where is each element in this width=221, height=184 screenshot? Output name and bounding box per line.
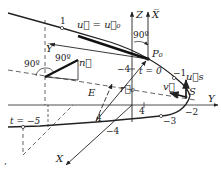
label-x-tick: 4	[96, 113, 102, 123]
label-z-axis: Z	[135, 9, 144, 20]
label-x-bar-axis: X̅	[151, 9, 160, 20]
angle-arc-top	[134, 41, 148, 45]
label-t-neg2: −2	[185, 107, 198, 117]
label-t-neg3: −3	[163, 116, 177, 126]
angle-arc-left	[36, 68, 45, 76]
label-t-neg1: −1	[173, 68, 186, 78]
label-y-tick: 4	[139, 106, 145, 116]
label-t1: 1	[60, 16, 66, 26]
label-t0: t = 0	[139, 66, 162, 76]
label-angle-3: 90º	[133, 30, 149, 40]
label-n-vector: n⃗	[79, 57, 91, 68]
label-u-vector: u⃗ = u⃗₀	[77, 19, 121, 30]
stray-mark: ,	[4, 156, 7, 166]
parametric-curve-diagram: Z X̅ Y̅ Y X P₀ S E u⃗ = u⃗₀ n⃗ u⃗s v⃗ r⃗…	[0, 0, 221, 184]
label-s: S	[189, 86, 196, 97]
v-vector	[170, 93, 186, 97]
label-t-neg4: −4	[106, 126, 120, 136]
label-angle-2: 90º	[55, 53, 71, 63]
point-t1	[60, 26, 63, 29]
diagram-svg: Z X̅ Y̅ Y X P₀ S E u⃗ = u⃗₀ n⃗ u⃗s v⃗ r⃗…	[0, 0, 221, 184]
label-t-neg5: t = −5	[10, 116, 40, 126]
label-angle-1: 90º	[24, 59, 40, 69]
label-r0-vector: r⃗₀	[120, 83, 135, 94]
label-v-vector: v⃗	[163, 81, 175, 92]
label-y-axis: Y	[208, 93, 216, 104]
dashed-diag-bottom	[23, 105, 73, 155]
label-z-tick: −4	[117, 64, 131, 74]
label-p0: P₀	[151, 48, 163, 59]
point-s	[185, 96, 188, 99]
point-p0	[146, 57, 150, 61]
label-e: E	[87, 87, 96, 98]
label-u-s-vector: u⃗s	[186, 71, 204, 82]
label-x-axis: X	[55, 153, 64, 164]
